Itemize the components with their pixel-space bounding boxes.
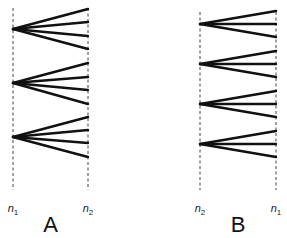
fan-group — [200, 91, 276, 117]
fan-group — [13, 117, 88, 157]
panel-a-title: A — [43, 214, 58, 236]
panel-a-left-axis-label: n1 — [8, 203, 19, 217]
fan-ray — [200, 64, 276, 77]
diagram-canvas — [0, 0, 287, 238]
panel-b-graphic — [200, 11, 276, 190]
fan-ray — [200, 11, 276, 24]
panel-b-left-axis-label: n2 — [195, 203, 206, 217]
fan-ray — [200, 24, 276, 37]
panel-a-right-axis-label: n2 — [83, 203, 94, 217]
panel-b-right-axis-label: n1 — [271, 203, 282, 217]
fan-group — [13, 9, 88, 49]
fan-ray — [200, 104, 276, 117]
panel-a-graphic — [13, 8, 88, 190]
fan-group — [200, 51, 276, 77]
fan-group — [13, 63, 88, 104]
fan-ray — [200, 51, 276, 64]
fan-ray — [200, 144, 276, 157]
panel-b-title: B — [231, 214, 246, 236]
fan-ray — [200, 91, 276, 104]
fan-ray — [200, 131, 276, 144]
fan-group — [200, 131, 276, 157]
fan-group — [200, 11, 276, 37]
